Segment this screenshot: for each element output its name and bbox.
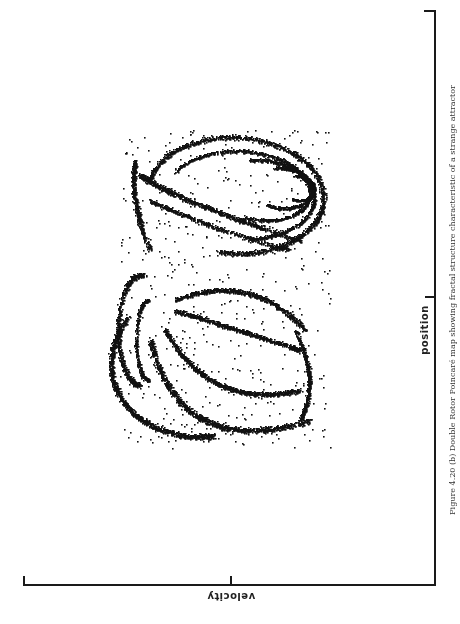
velocity-axis-label: velocity	[207, 591, 255, 602]
position-axis-line	[434, 10, 436, 586]
figure-caption: Figure 4.20 (b) Double Rotor Poincaré ma…	[448, 85, 457, 515]
position-axis-label: position	[419, 305, 430, 355]
velocity-axis-center-tick	[230, 576, 232, 585]
figure: velocity position Figure 4.20 (b) Double…	[0, 0, 460, 624]
position-axis-center-tick	[425, 296, 435, 298]
velocity-axis-left-end-tick	[23, 576, 25, 586]
position-axis-top-end-tick	[424, 10, 436, 12]
scatter-plot	[0, 0, 460, 624]
